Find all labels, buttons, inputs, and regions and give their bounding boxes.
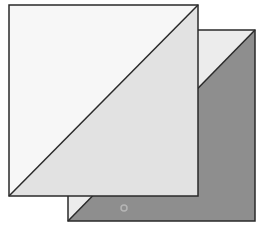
front-square [9,5,198,196]
overlapping-squares-diagram [0,0,276,240]
